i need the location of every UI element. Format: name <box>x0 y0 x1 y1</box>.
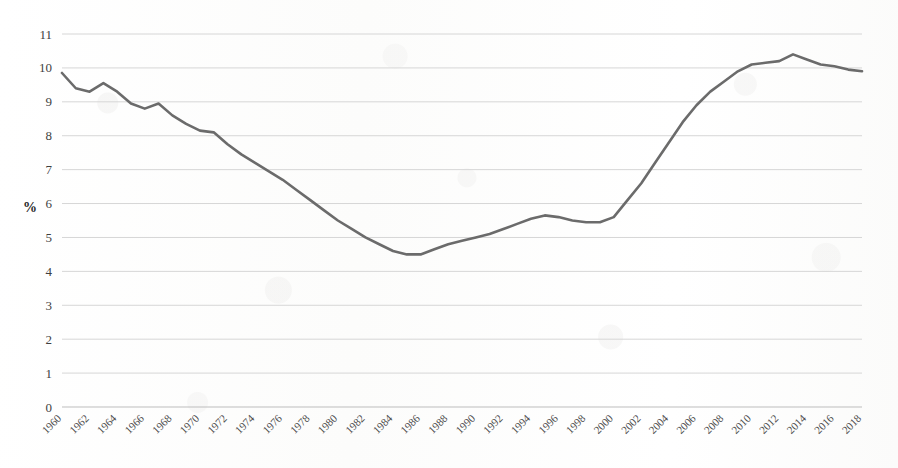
x-axis-tick-label: 1976 <box>260 412 284 436</box>
x-axis-tick-label: 1968 <box>150 412 174 436</box>
x-axis-tick-label: 2000 <box>591 412 615 436</box>
x-axis-tick-label: 1992 <box>481 412 505 436</box>
x-axis-tick-label: 1988 <box>426 412 450 436</box>
gridline-group <box>62 34 862 407</box>
x-axis-tick-label: 1994 <box>508 412 532 436</box>
y-axis-tick-label: 5 <box>46 230 53 245</box>
y-axis-tick-label: 4 <box>46 264 53 279</box>
y-axis-tick-label: 1 <box>46 366 53 381</box>
x-axis-tick-label: 1998 <box>564 412 588 436</box>
x-axis-tick-label: 2004 <box>646 412 670 436</box>
y-axis-tick-labels: 01234567891011 <box>39 27 53 415</box>
y-axis-tick-label: 0 <box>46 400 53 415</box>
y-axis-tick-label: 2 <box>46 332 53 347</box>
data-series-line <box>62 54 862 254</box>
x-axis-tick-label: 2012 <box>757 412 781 436</box>
y-axis-tick-label: 9 <box>46 94 53 109</box>
x-axis-tick-label: 1982 <box>343 412 367 436</box>
x-axis-tick-label: 2006 <box>674 412 698 436</box>
line-chart: 01234567891011 1960196219641966196819701… <box>0 0 898 468</box>
x-axis-tick-label: 2018 <box>839 412 863 436</box>
x-axis-tick-label: 1964 <box>95 412 119 436</box>
y-axis-label: % <box>23 200 37 215</box>
x-axis-tick-label: 1984 <box>370 412 394 436</box>
x-axis-tick-labels: 1960196219641966196819701972197419761978… <box>39 412 863 436</box>
x-axis-tick-label: 2014 <box>784 412 808 436</box>
x-axis-tick-label: 2016 <box>812 412 836 436</box>
x-axis-tick-label: 1970 <box>177 412 201 436</box>
y-axis-tick-label: 6 <box>46 196 53 211</box>
x-axis-tick-label: 1978 <box>288 412 312 436</box>
x-axis-tick-label: 1974 <box>232 412 256 436</box>
y-axis-tick-label: 10 <box>39 60 52 75</box>
x-axis-tick-label: 2002 <box>619 412 643 436</box>
y-axis-tick-label: 11 <box>39 27 52 42</box>
x-axis-tick-label: 2010 <box>729 412 753 436</box>
x-axis-tick-label: 1986 <box>398 412 422 436</box>
x-axis-tick-label: 1962 <box>67 412 91 436</box>
x-axis-tick-label: 1972 <box>205 412 229 436</box>
x-axis-tick-label: 1980 <box>315 412 339 436</box>
y-axis-tick-label: 8 <box>46 128 53 143</box>
x-axis-tick-label: 2008 <box>701 412 725 436</box>
x-axis-tick-label: 1996 <box>536 412 560 436</box>
x-axis-tick-label: 1960 <box>39 412 63 436</box>
x-axis-tick-label: 1990 <box>453 412 477 436</box>
y-axis-tick-label: 7 <box>46 162 53 177</box>
y-axis-tick-label: 3 <box>46 298 53 313</box>
x-axis-tick-label: 1966 <box>122 412 146 436</box>
chart-svg: 01234567891011 1960196219641966196819701… <box>0 0 898 468</box>
